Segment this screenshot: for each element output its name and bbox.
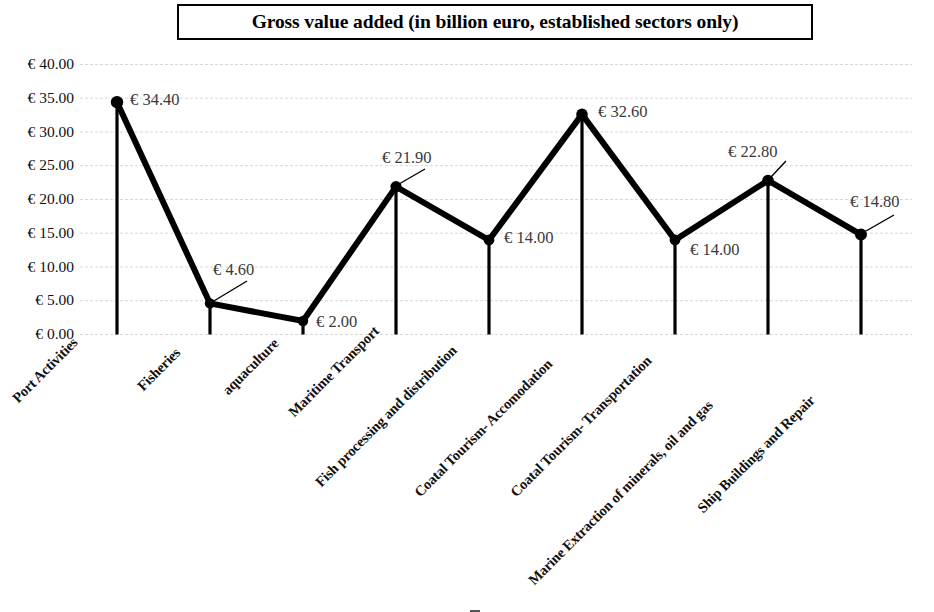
y-tick-30: € 30.00 [28, 123, 75, 141]
chart-title-box: Gross value added (in billion euro, esta… [177, 4, 813, 40]
y-tick-35: € 35.00 [28, 89, 75, 107]
x-label-fisheries: Fisheries [134, 344, 184, 394]
data-label-5: € 32.60 [598, 102, 648, 122]
y-tick-40: € 40.00 [28, 55, 75, 73]
y-tick-20: € 20.00 [28, 190, 75, 208]
data-label-2: € 2.00 [316, 312, 357, 332]
data-label-0: € 34.40 [130, 90, 180, 110]
y-tick-15: € 15.00 [28, 224, 75, 242]
data-point-6 [670, 235, 681, 246]
data-point-8 [855, 229, 867, 241]
plot-area: € 34.40 € 4.60 € 2.00 € 21.90 € 14.00 € … [80, 64, 912, 334]
x-axis-labels: Port Activities Fisheries aquaculture Ma… [0, 334, 934, 612]
leader-line-3 [399, 169, 425, 184]
x-label-maritime-transport: Maritime Transport [285, 323, 383, 421]
chart-title: Gross value added (in billion euro, esta… [252, 11, 739, 33]
data-label-7: € 22.80 [728, 142, 778, 162]
data-point-5 [576, 109, 588, 121]
plot-svg [80, 64, 912, 336]
chart-container: Gross value added (in billion euro, esta… [0, 0, 934, 612]
y-tick-5: € 5.00 [35, 291, 74, 309]
leader-line-1 [213, 281, 247, 302]
leader-line-8 [866, 215, 894, 231]
data-point-2 [298, 316, 308, 326]
leader-line-7 [771, 161, 786, 177]
y-axis-labels: € 40.00 € 35.00 € 30.00 € 25.00 € 20.00 … [0, 64, 74, 334]
y-tick-25: € 25.00 [28, 156, 75, 174]
data-point-4 [484, 235, 495, 246]
data-label-1: € 4.60 [213, 260, 254, 280]
data-point-0 [111, 96, 123, 108]
data-point-1 [205, 298, 215, 308]
label-leader-lines [213, 161, 894, 302]
data-label-6: € 14.00 [690, 240, 740, 260]
drop-lines [117, 102, 861, 334]
x-label-aquaculture: aquaculture [219, 335, 282, 398]
data-label-4: € 14.00 [504, 228, 554, 248]
x-label-marine-extraction: Marine Extraction of minerals, oil and g… [525, 397, 716, 588]
y-tick-10: € 10.00 [28, 258, 75, 276]
data-label-8: € 14.80 [850, 192, 900, 212]
data-label-3: € 21.90 [382, 148, 432, 168]
x-label-port-activities: Port Activities [9, 334, 81, 406]
